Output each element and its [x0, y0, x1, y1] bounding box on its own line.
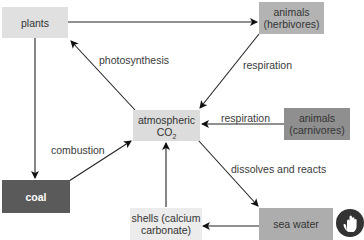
node-plants: plants — [2, 7, 68, 38]
edge-label-respiration-carnivores: respiration — [221, 112, 270, 124]
node-co2-line2: CO2 — [157, 126, 177, 138]
node-carnivores-line1: animals — [299, 112, 335, 124]
node-plants-label: plants — [21, 17, 49, 29]
node-herbivores-line2: (herbivores) — [263, 18, 319, 30]
node-sea-water: sea water — [259, 208, 333, 240]
node-atmospheric-co2: atmospheric CO2 — [133, 110, 200, 141]
node-coal-label: coal — [25, 191, 46, 203]
co2-subscript: 2 — [172, 133, 176, 140]
edge-co2-plants — [71, 41, 135, 110]
node-shells-line1: shells (calcium — [132, 212, 201, 224]
node-shells: shells (calcium carbonate) — [130, 208, 202, 240]
node-coal: coal — [2, 180, 70, 213]
node-herbivores: animals (herbivores) — [259, 2, 324, 34]
node-carnivores-line2: (carnivores) — [289, 124, 344, 136]
edge-label-dissolves: dissolves and reacts — [231, 163, 326, 175]
node-co2-line1: atmospheric — [138, 114, 195, 126]
co2-formula: CO — [157, 126, 173, 138]
node-sea-water-label: sea water — [273, 218, 319, 230]
edge-label-photosynthesis: photosynthesis — [99, 54, 169, 66]
node-shells-line2: carbonate) — [141, 224, 191, 236]
edge-herbivores-co2 — [200, 34, 259, 108]
edge-label-combustion: combustion — [51, 144, 105, 156]
node-herbivores-line1: animals — [273, 6, 309, 18]
hand-pointer-icon[interactable] — [336, 209, 364, 237]
hand-glyph — [336, 209, 364, 237]
edge-label-respiration-herbivores: respiration — [243, 59, 292, 71]
node-carnivores: animals (carnivores) — [284, 108, 350, 140]
